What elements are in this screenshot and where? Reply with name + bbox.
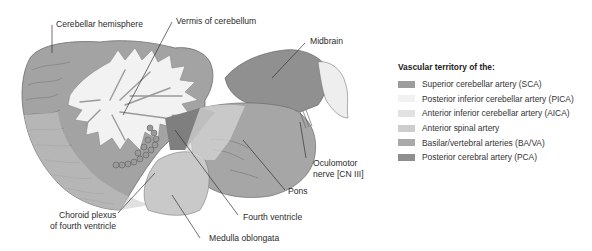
legend-item-ba-va: Basilar/vertebral arteries (BA/VA) bbox=[398, 135, 574, 150]
label-oculomotor-line1: Oculomotor bbox=[313, 158, 357, 169]
label-choroid-line1: Choroid plexus bbox=[59, 210, 116, 221]
swatch-anterior-spinal bbox=[398, 125, 415, 132]
legend-label: Anterior inferior cerebellar artery (AIC… bbox=[422, 108, 570, 118]
legend-label: Posterior inferior cerebellar artery (PI… bbox=[422, 94, 574, 104]
label-choroid-line2: of fourth ventricle bbox=[50, 221, 116, 232]
swatch-aica bbox=[398, 110, 415, 117]
legend-label: Anterior spinal artery bbox=[422, 123, 499, 133]
swatch-pica bbox=[398, 95, 415, 102]
label-fourth-ventricle: Fourth ventricle bbox=[243, 212, 302, 223]
label-cerebellar-hemisphere: Cerebellar hemisphere bbox=[56, 19, 143, 30]
label-medulla: Medulla oblongata bbox=[209, 233, 279, 244]
legend-label: Basilar/vertebral arteries (BA/VA) bbox=[422, 138, 545, 148]
legend-title: Vascular territory of the: bbox=[398, 62, 574, 72]
legend-item-aica: Anterior inferior cerebellar artery (AIC… bbox=[398, 106, 574, 121]
legend: Vascular territory of the: Superior cere… bbox=[398, 62, 574, 165]
legend-item-pca: Posterior cerebral artery (PCA) bbox=[398, 150, 574, 165]
swatch-ba-va bbox=[398, 139, 415, 146]
legend-item-sca: Superior cerebellar artery (SCA) bbox=[398, 77, 574, 92]
legend-label: Superior cerebellar artery (SCA) bbox=[422, 79, 542, 89]
label-vermis: Vermis of cerebellum bbox=[176, 16, 256, 27]
legend-item-pica: Posterior inferior cerebellar artery (PI… bbox=[398, 92, 574, 107]
label-oculomotor-line2: nerve [CN III] bbox=[313, 169, 364, 180]
label-pons: Pons bbox=[288, 186, 308, 197]
legend-label: Posterior cerebral artery (PCA) bbox=[422, 152, 537, 162]
swatch-pca bbox=[398, 154, 415, 161]
label-midbrain: Midbrain bbox=[310, 36, 343, 47]
legend-item-anterior-spinal: Anterior spinal artery bbox=[398, 121, 574, 136]
swatch-sca bbox=[398, 81, 415, 88]
